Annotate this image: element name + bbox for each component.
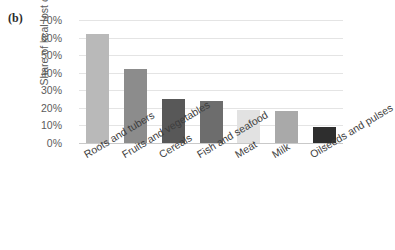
y-tick-label-70: 70% <box>20 15 62 25</box>
bar <box>162 99 185 143</box>
x-tick-mark <box>324 144 325 147</box>
y-tick-label-40: 40% <box>20 68 62 78</box>
y-tick-label-0: 0% <box>20 138 62 148</box>
y-tick-label-60: 60% <box>20 33 62 43</box>
x-axis-category-label: Milk <box>271 141 293 160</box>
gridline-30 <box>79 90 343 91</box>
gridline-70 <box>79 20 343 21</box>
gridline-50 <box>79 55 343 56</box>
gridline-60 <box>79 38 343 39</box>
y-tick-label-20: 20% <box>20 103 62 113</box>
bar <box>275 111 298 143</box>
bar <box>313 127 336 143</box>
x-tick-mark <box>211 144 212 147</box>
x-tick-mark <box>173 144 174 147</box>
gridline-40 <box>79 73 343 74</box>
y-tick-label-50: 50% <box>20 50 62 60</box>
x-tick-mark <box>98 144 99 147</box>
x-tick-mark <box>136 144 137 147</box>
y-tick-label-10: 10% <box>20 120 62 130</box>
x-tick-mark <box>286 144 287 147</box>
plot-area: 0%10%20%30%40%50%60%70% <box>79 20 343 144</box>
bar <box>124 69 147 143</box>
bar <box>237 110 260 143</box>
bar <box>200 101 223 143</box>
y-tick-label-30: 30% <box>20 85 62 95</box>
bar <box>86 34 109 143</box>
x-tick-mark <box>249 144 250 147</box>
